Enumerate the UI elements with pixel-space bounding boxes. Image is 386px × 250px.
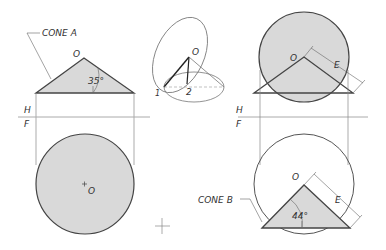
cone-b-label: CONE B [198, 195, 233, 205]
f-label-left: F [24, 119, 30, 129]
registration-cross [155, 218, 170, 234]
cone-a-label: CONE A [42, 28, 77, 38]
h-label-left: H [24, 105, 31, 115]
apex-o-label: O [73, 49, 80, 59]
h-label-right: H [236, 105, 243, 115]
pictorial-cone: O 1 2 [141, 9, 224, 102]
apex-o-top-right-label: O [290, 53, 297, 63]
reference-lines: H F H F [18, 105, 368, 129]
apex-o-center-label: O [192, 47, 199, 57]
angle-44-label: 44° [292, 211, 308, 221]
cone-a-front-view: O [36, 134, 134, 234]
apex-o-bottom-right-label: O [292, 172, 299, 182]
angle-35-label: 35° [88, 76, 104, 86]
cone-b-front-view: O E 44° CONE B [198, 134, 362, 234]
right-top-view: O E [254, 12, 365, 165]
point-1-label: 1 [155, 89, 160, 98]
dim-e-top-label: E [334, 60, 340, 70]
f-label-right: F [236, 119, 242, 129]
dim-e-bottom-label: E [335, 195, 341, 205]
center-o-label: O [88, 186, 95, 196]
cone-drawing: CONE A O 35° H F H F O O 1 2 [0, 0, 386, 250]
point-2-label: 2 [186, 87, 192, 97]
